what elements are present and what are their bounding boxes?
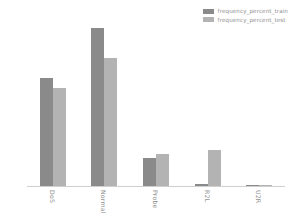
legend-swatch-icon	[203, 9, 214, 14]
bar-group	[195, 20, 221, 186]
bar-chart-figure: 01020304050 frequency_percent_trainfrequ…	[0, 0, 294, 223]
y-axis: 01020304050	[0, 0, 27, 223]
bar-probe-train	[143, 158, 156, 186]
x-axis-tick-label: DoS	[49, 190, 56, 203]
bar-u2r-test	[259, 185, 272, 186]
x-axis-tick-label: R2L	[204, 190, 211, 202]
x-axis-tick-label: U2R	[255, 190, 262, 203]
bar-r2l-test	[208, 150, 221, 186]
x-axis-tick-label: Probe	[152, 190, 159, 209]
bar-r2l-train	[195, 184, 208, 186]
legend-item: frequency_percent_train	[203, 8, 288, 14]
bar-group	[40, 20, 66, 186]
bar-dos-test	[53, 88, 66, 186]
bar-group	[91, 20, 117, 186]
bar-u2r-train	[246, 185, 259, 186]
bar-normal-train	[91, 28, 104, 186]
bar-group	[143, 20, 169, 186]
bar-dos-train	[40, 78, 53, 186]
bar-normal-test	[104, 58, 117, 186]
bar-group	[246, 20, 272, 186]
x-axis-tick-label: Normal	[100, 190, 107, 214]
bar-probe-test	[156, 154, 169, 186]
legend-label: frequency_percent_train	[218, 8, 288, 14]
x-axis-baseline	[27, 186, 285, 187]
